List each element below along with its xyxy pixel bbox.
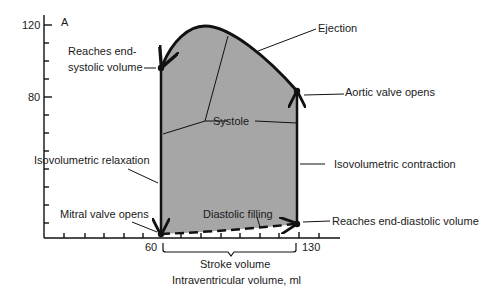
pv-loop-area — [161, 26, 297, 234]
isovolumetric-relaxation-label: Isovolumetric relaxation — [34, 154, 150, 166]
aortic-valve-point — [294, 88, 300, 94]
mitral-valve-point — [158, 231, 164, 237]
diastolic-filling-label: Diastolic filling — [203, 208, 273, 220]
y-tick-80: 80 — [28, 91, 40, 103]
stroke-volume-label: Stroke volume — [200, 258, 270, 270]
panel-label: A — [61, 16, 69, 28]
x-tick-60: 60 — [145, 241, 157, 253]
mitral-valve-opens-label: Mitral valve opens — [60, 208, 149, 220]
reaches-edv-label: Reaches end-diastolic volume — [332, 215, 479, 227]
end-diastolic-point — [294, 221, 300, 227]
x-axis-label: Intraventricular volume, ml — [172, 274, 301, 286]
x-tick-130: 130 — [302, 241, 320, 253]
reaches-esv-label-1: Reaches end- — [68, 45, 137, 57]
y-axis — [44, 15, 52, 238]
reaches-esv-label-2: systolic volume — [68, 61, 143, 73]
aortic-valve-opens-label: Aortic valve opens — [345, 86, 435, 98]
isovolumetric-contraction-label: Isovolumetric contraction — [334, 158, 456, 170]
end-systolic-point — [158, 65, 164, 71]
stroke-volume-bracket — [163, 243, 296, 256]
ejection-label: Ejection — [318, 22, 357, 34]
y-tick-120: 120 — [22, 19, 40, 31]
systole-label: Systole — [213, 115, 249, 127]
pressure-volume-diagram: 120 80 A 60 130 Stroke volume Intraventr… — [0, 0, 499, 295]
